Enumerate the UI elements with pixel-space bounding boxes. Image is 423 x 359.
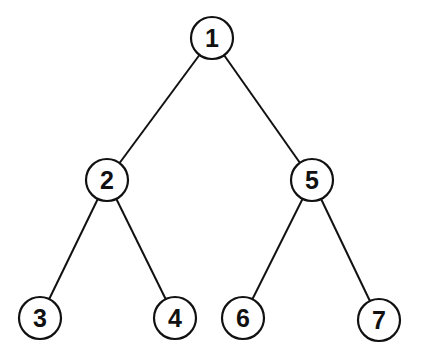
edge-1-2	[107, 38, 212, 180]
edge-2-4	[107, 180, 175, 318]
tree-node-1: 1	[191, 17, 233, 59]
tree-node-6: 6	[222, 297, 264, 339]
tree-node-2: 2	[86, 159, 128, 201]
edge-2-3	[40, 180, 107, 318]
node-label: 5	[305, 166, 319, 194]
node-label: 1	[205, 24, 219, 52]
edge-1-5	[212, 38, 312, 180]
edge-5-6	[243, 180, 312, 318]
tree-node-5: 5	[291, 159, 333, 201]
node-label: 6	[236, 304, 250, 332]
tree-diagram: 1253467	[0, 0, 423, 359]
node-label: 7	[372, 306, 386, 334]
nodes: 1253467	[19, 17, 400, 341]
edge-5-7	[312, 180, 379, 320]
node-label: 4	[168, 304, 182, 332]
tree-node-4: 4	[154, 297, 196, 339]
tree-node-3: 3	[19, 297, 61, 339]
tree-node-7: 7	[358, 299, 400, 341]
node-label: 3	[33, 304, 47, 332]
node-label: 2	[100, 166, 114, 194]
